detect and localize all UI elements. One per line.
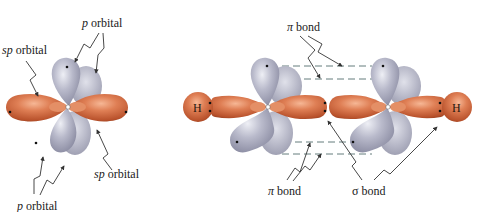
label-sp-orbital-left: sp orbital xyxy=(2,43,48,57)
arrow-sp-orbital-left xyxy=(26,61,38,96)
label-pi-bond-top: π bond xyxy=(287,20,320,34)
label-p-orbital-top: p orbital xyxy=(81,16,123,30)
label-sigma-bond: σ bond xyxy=(352,184,385,198)
carbon-nucleus-left xyxy=(266,105,270,109)
electron-dot xyxy=(9,111,12,114)
electron-dot xyxy=(439,102,442,105)
arrow-p-orbital-bottom-1 xyxy=(34,157,43,194)
arrow-sp-orbital-right xyxy=(97,130,112,170)
electron-dot xyxy=(382,65,385,68)
sp-inner-lobe xyxy=(250,102,266,112)
sp-inner-lobe xyxy=(269,102,285,112)
sp-carbon-atom xyxy=(6,58,128,155)
arrow-pi-bond-top-1 xyxy=(300,36,320,78)
hydrogen-label-right: H xyxy=(452,101,461,115)
sp-inner-lobe-right xyxy=(68,102,86,112)
carbon-nucleus xyxy=(66,105,70,109)
electron-dot xyxy=(266,65,269,68)
electron-dot xyxy=(324,102,327,105)
carbon-nucleus-right xyxy=(386,105,390,109)
electron-dot xyxy=(209,102,212,105)
arrow-p-orbital-top-1 xyxy=(75,33,99,62)
label-pi-bond-bottom: π bond xyxy=(268,184,301,198)
arrow-p-orbital-top-2 xyxy=(96,33,104,73)
electron-dot xyxy=(352,141,355,144)
arrow-p-orbital-bottom-2 xyxy=(40,166,64,195)
electron-dot xyxy=(209,110,212,113)
sp-inner-lobe-left xyxy=(49,102,67,112)
label-p-orbital-bottom: p orbital xyxy=(16,199,58,212)
electron-dot xyxy=(125,111,128,114)
electron-dot xyxy=(236,141,239,144)
electron-dot xyxy=(324,110,327,113)
electron-dot xyxy=(35,142,38,145)
electron-dot xyxy=(439,110,442,113)
label-sp-orbital-right: sp orbital xyxy=(94,167,140,181)
hydrogen-label-left: H xyxy=(193,101,202,115)
arrow-pi-bond-bottom-2 xyxy=(293,154,321,181)
electron-dot xyxy=(66,66,69,69)
orbital-diagram: p orbital sp orbital sp orbital p orbita… xyxy=(0,0,482,212)
arrow-pi-bond-top-2 xyxy=(308,36,342,66)
sp-inner-lobe xyxy=(390,102,406,112)
